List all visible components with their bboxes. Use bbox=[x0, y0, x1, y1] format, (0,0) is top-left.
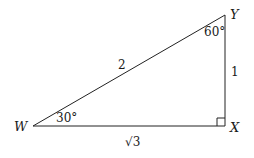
vertex-label-x: X bbox=[229, 120, 240, 135]
side-label-wx: √3 bbox=[125, 135, 140, 149]
side-label-xy: 1 bbox=[231, 65, 239, 79]
side-label-wy: 2 bbox=[118, 58, 126, 72]
right-angle-marker-icon bbox=[217, 118, 225, 126]
vertex-label-y: Y bbox=[230, 7, 240, 22]
vertex-label-w: W bbox=[14, 119, 29, 134]
angle-label-w: 30° bbox=[56, 111, 77, 125]
side-wy bbox=[33, 15, 225, 126]
angle-label-y: 60° bbox=[204, 25, 225, 39]
right-triangle-diagram: W X Y 2 1 √3 30° 60° bbox=[0, 0, 254, 158]
